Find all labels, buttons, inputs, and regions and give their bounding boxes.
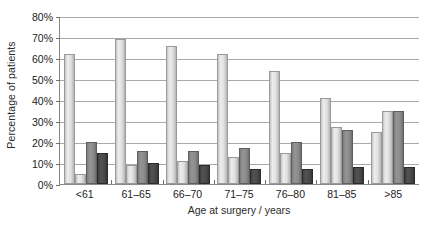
bar-group [111, 17, 162, 184]
bar [342, 130, 353, 185]
bar [280, 153, 291, 184]
bar [166, 46, 177, 185]
y-tick-label: 70% [32, 32, 53, 44]
bar-chart: Percentage of patients 0%10%20%30%40%50%… [0, 0, 426, 227]
bar [353, 167, 364, 184]
y-tick-label: 80% [32, 11, 53, 23]
bar [64, 54, 75, 184]
y-tick-label: 40% [32, 95, 53, 107]
bar-group [368, 17, 419, 184]
y-axis-title-text: Percentage of patients [5, 41, 17, 148]
x-tick-mark [316, 180, 317, 184]
y-tick-mark [56, 185, 60, 186]
x-tick-mark [111, 180, 112, 184]
bar [115, 39, 126, 184]
x-axis-title: Age at surgery / years [59, 204, 419, 216]
bars-layer [60, 17, 419, 184]
bar [137, 151, 148, 185]
bar [148, 163, 159, 184]
x-tick-mark [214, 180, 215, 184]
x-tick-label: 81–85 [316, 188, 367, 203]
y-tick-label: 50% [32, 74, 53, 86]
x-tick-mark [265, 180, 266, 184]
bar [320, 98, 331, 184]
bar [382, 111, 393, 184]
bar [217, 54, 228, 184]
bar [97, 153, 108, 184]
x-tick-label: 76–80 [265, 188, 316, 203]
y-tick-label: 20% [32, 137, 53, 149]
x-tick-label: 61–65 [110, 188, 161, 203]
bar-group [316, 17, 367, 184]
bar [393, 111, 404, 184]
bar [404, 167, 415, 184]
bar [126, 165, 137, 184]
bar [302, 169, 313, 184]
bar-group [214, 17, 265, 184]
y-tick-label: 60% [32, 53, 53, 65]
bar [75, 174, 86, 184]
bar [177, 161, 188, 184]
x-tick-label: <61 [59, 188, 110, 203]
bar [199, 165, 210, 184]
bar [269, 71, 280, 184]
bar [331, 127, 342, 184]
bar-group [163, 17, 214, 184]
x-tick-mark [368, 180, 369, 184]
plot-area [59, 17, 419, 185]
bar [188, 151, 199, 185]
bar-group [265, 17, 316, 184]
x-tick-label: >85 [368, 188, 419, 203]
bar [371, 132, 382, 184]
bar-group [60, 17, 111, 184]
bar [86, 142, 97, 184]
bar [239, 148, 250, 184]
y-axis-title: Percentage of patients [0, 0, 22, 190]
y-tick-label: 0% [38, 179, 53, 191]
bar [250, 169, 261, 184]
x-tick-label: 66–70 [162, 188, 213, 203]
x-tick-label: 71–75 [213, 188, 264, 203]
y-axis-tick-labels: 0%10%20%30%40%50%60%70%80% [20, 10, 56, 192]
x-tick-mark [163, 180, 164, 184]
x-axis-tick-labels: <6161–6566–7071–7576–8081–85>85 [59, 188, 419, 203]
y-tick-label: 10% [32, 158, 53, 170]
y-tick-label: 30% [32, 116, 53, 128]
bar [291, 142, 302, 184]
bar [228, 157, 239, 184]
